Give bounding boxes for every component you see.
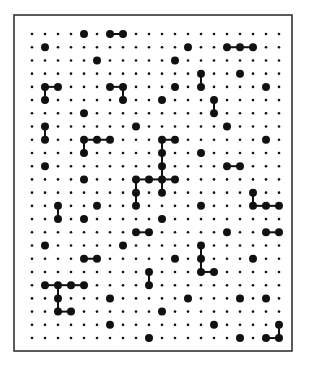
grid-point[interactable] [174, 33, 177, 36]
grid-point[interactable] [161, 297, 164, 300]
grid-point[interactable] [135, 46, 138, 49]
grid-point[interactable] [70, 244, 73, 247]
node-dot[interactable] [210, 96, 218, 104]
node-dot[interactable] [223, 162, 231, 170]
node-dot[interactable] [41, 242, 49, 250]
node-dot[interactable] [145, 228, 153, 236]
grid-point[interactable] [135, 324, 138, 327]
grid-point[interactable] [109, 244, 112, 247]
grid-point[interactable] [239, 271, 242, 274]
grid-point[interactable] [83, 337, 86, 340]
grid-point[interactable] [31, 152, 34, 155]
grid-point[interactable] [70, 231, 73, 234]
node-dot[interactable] [41, 136, 49, 144]
node-dot[interactable] [158, 162, 166, 170]
grid-point[interactable] [122, 310, 125, 313]
grid-point[interactable] [135, 284, 138, 287]
grid-point[interactable] [70, 257, 73, 260]
grid-point[interactable] [187, 271, 190, 274]
grid-point[interactable] [200, 218, 203, 221]
grid-point[interactable] [122, 284, 125, 287]
node-dot[interactable] [236, 334, 244, 342]
grid-point[interactable] [122, 165, 125, 168]
grid-point[interactable] [265, 152, 268, 155]
grid-point[interactable] [213, 46, 216, 49]
grid-point[interactable] [122, 231, 125, 234]
grid-point[interactable] [70, 112, 73, 115]
grid-point[interactable] [109, 310, 112, 313]
grid-point[interactable] [96, 324, 99, 327]
grid-point[interactable] [148, 138, 151, 141]
node-dot[interactable] [223, 123, 231, 131]
grid-point[interactable] [148, 191, 151, 194]
node-dot[interactable] [158, 96, 166, 104]
grid-point[interactable] [96, 244, 99, 247]
grid-point[interactable] [213, 178, 216, 181]
grid-point[interactable] [109, 59, 112, 62]
grid-point[interactable] [239, 231, 242, 234]
grid-point[interactable] [122, 72, 125, 75]
grid-point[interactable] [226, 257, 229, 260]
grid-point[interactable] [96, 310, 99, 313]
grid-point[interactable] [239, 138, 242, 141]
grid-point[interactable] [57, 337, 60, 340]
grid-point[interactable] [31, 205, 34, 208]
grid-point[interactable] [44, 310, 47, 313]
grid-point[interactable] [213, 165, 216, 168]
node-dot[interactable] [171, 83, 179, 91]
grid-point[interactable] [174, 297, 177, 300]
grid-point[interactable] [57, 244, 60, 247]
grid-point[interactable] [148, 86, 151, 89]
grid-point[interactable] [187, 86, 190, 89]
grid-point[interactable] [278, 178, 281, 181]
grid-point[interactable] [70, 191, 73, 194]
grid-point[interactable] [122, 46, 125, 49]
grid-point[interactable] [174, 337, 177, 340]
grid-point[interactable] [161, 324, 164, 327]
grid-point[interactable] [239, 218, 242, 221]
grid-point[interactable] [239, 191, 242, 194]
node-dot[interactable] [262, 294, 270, 302]
node-dot[interactable] [197, 83, 205, 91]
grid-point[interactable] [31, 191, 34, 194]
grid-point[interactable] [174, 231, 177, 234]
grid-point[interactable] [161, 46, 164, 49]
grid-point[interactable] [109, 72, 112, 75]
node-dot[interactable] [249, 189, 257, 197]
grid-point[interactable] [265, 99, 268, 102]
grid-point[interactable] [148, 324, 151, 327]
grid-point[interactable] [31, 244, 34, 247]
node-dot[interactable] [132, 189, 140, 197]
grid-point[interactable] [174, 125, 177, 128]
grid-point[interactable] [135, 257, 138, 260]
grid-point[interactable] [161, 33, 164, 36]
grid-point[interactable] [70, 205, 73, 208]
grid-point[interactable] [135, 72, 138, 75]
grid-point[interactable] [122, 257, 125, 260]
grid-point[interactable] [174, 310, 177, 313]
node-dot[interactable] [197, 268, 205, 276]
grid-point[interactable] [226, 112, 229, 115]
node-dot[interactable] [145, 268, 153, 276]
grid-point[interactable] [278, 244, 281, 247]
grid-point[interactable] [96, 337, 99, 340]
grid-point[interactable] [265, 165, 268, 168]
grid-point[interactable] [96, 112, 99, 115]
grid-point[interactable] [148, 125, 151, 128]
grid-point[interactable] [57, 191, 60, 194]
grid-point[interactable] [213, 297, 216, 300]
grid-point[interactable] [278, 112, 281, 115]
node-dot[interactable] [197, 149, 205, 157]
grid-point[interactable] [70, 271, 73, 274]
grid-point[interactable] [109, 205, 112, 208]
grid-point[interactable] [278, 138, 281, 141]
grid-point[interactable] [44, 191, 47, 194]
node-dot[interactable] [106, 294, 114, 302]
grid-point[interactable] [44, 152, 47, 155]
grid-point[interactable] [239, 244, 242, 247]
node-dot[interactable] [197, 255, 205, 263]
grid-point[interactable] [96, 165, 99, 168]
node-dot[interactable] [184, 294, 192, 302]
grid-point[interactable] [252, 231, 255, 234]
grid-point[interactable] [57, 72, 60, 75]
